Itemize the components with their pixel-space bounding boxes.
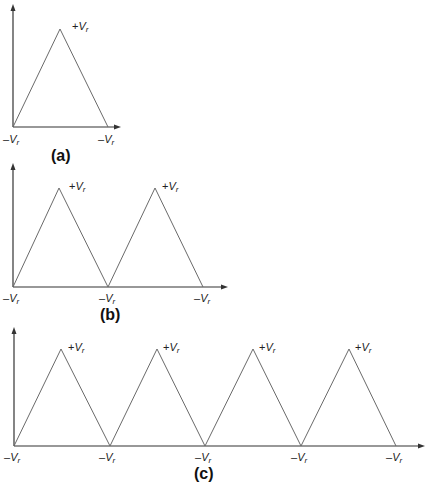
triangular-waveform-figure: +Vr –Vr –Vr (a) +Vr +Vr –Vr –Vr –Vr (b) …: [0, 0, 430, 498]
peak-label: +Vr: [68, 341, 85, 355]
x-axis-arrow-icon: [221, 285, 228, 290]
valley-label: –Vr: [195, 451, 211, 465]
waveform-c: [14, 349, 396, 446]
waveform-b: [13, 188, 203, 287]
peak-label: +Vr: [162, 180, 179, 194]
caption-a: (a): [51, 147, 71, 164]
x-axis-arrow-icon: [114, 125, 121, 130]
valley-label: –Vr: [386, 451, 402, 465]
peak-label: +Vr: [163, 341, 180, 355]
diagram-b: +Vr +Vr –Vr –Vr –Vr (b): [3, 163, 228, 323]
y-axis-arrow-icon: [12, 327, 17, 334]
peak-label: +Vr: [69, 180, 86, 194]
waveform-a: [13, 29, 108, 127]
peak-label: +Vr: [355, 341, 372, 355]
diagram-a: +Vr –Vr –Vr (a): [3, 4, 121, 164]
valley-label: –Vr: [3, 292, 19, 306]
x-axis-arrow-icon: [418, 444, 425, 449]
valley-label: –Vr: [291, 451, 307, 465]
peak-label: +Vr: [259, 341, 276, 355]
valley-label: –Vr: [3, 133, 19, 147]
peak-label: +Vr: [72, 20, 89, 34]
valley-label: –Vr: [98, 133, 114, 147]
y-axis-arrow-icon: [11, 163, 16, 170]
valley-label: –Vr: [99, 292, 115, 306]
caption-c: (c): [194, 465, 214, 482]
valley-label: –Vr: [99, 451, 115, 465]
valley-label: –Vr: [194, 292, 210, 306]
valley-label: –Vr: [4, 451, 20, 465]
caption-b: (b): [100, 306, 120, 323]
diagram-c: +Vr +Vr +Vr +Vr –Vr –Vr –Vr –Vr –Vr (c): [4, 327, 425, 482]
y-axis-arrow-icon: [11, 4, 16, 11]
